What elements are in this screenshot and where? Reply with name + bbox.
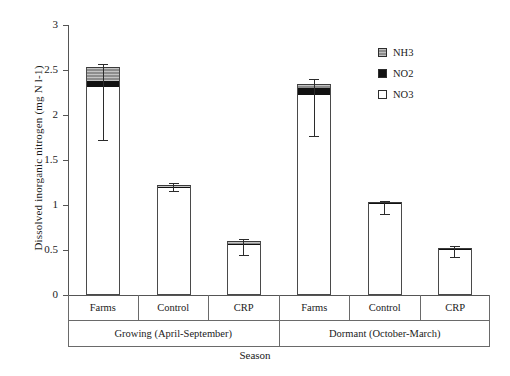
season-label-dormant: Dormant (October-March) [280, 321, 491, 346]
season-label-row: Growing (April-September)Dormant (Octobe… [68, 321, 490, 347]
error-bar-lower [103, 67, 104, 140]
season-label-growing: Growing (April-September) [68, 321, 280, 346]
error-bar-lower-cap [450, 257, 460, 258]
treatment-label-row: FarmsControlCRPFarmsControlCRP [68, 295, 490, 321]
error-bar-lower-cap [169, 191, 179, 192]
legend-item-no3: NO3 [378, 84, 488, 105]
error-bar-lower [454, 248, 455, 257]
y-tick-label: 3 [18, 19, 58, 30]
legend-item-nh3: NH3 [378, 42, 488, 63]
error-bar-lower-cap [98, 140, 108, 141]
x-axis-title: Season [0, 349, 510, 361]
legend-item-no2: NO2 [378, 63, 488, 84]
y-tick-label: 0 [18, 289, 58, 300]
treatment-label-farms: Farms [280, 295, 351, 320]
treatment-label-control: Control [139, 295, 210, 320]
no2-black-swatch-icon [378, 69, 387, 78]
treatment-label-crp: CRP [421, 295, 491, 320]
legend-label-no3: NO3 [393, 89, 413, 100]
y-tick-label: 2.5 [18, 64, 58, 75]
bar-segment-no3 [368, 204, 402, 295]
error-bar-lower-cap [380, 214, 390, 215]
y-tick-label: 0.5 [18, 244, 58, 255]
category-axis: FarmsControlCRPFarmsControlCRP Growing (… [68, 295, 490, 347]
y-axis-line [68, 25, 69, 296]
stacked-bar [368, 202, 402, 295]
y-tick-label: 2 [18, 109, 58, 120]
error-bar-upper-cap [98, 64, 108, 65]
error-bar-lower [243, 241, 244, 255]
treatment-label-crp: CRP [209, 295, 280, 320]
treatment-label-control: Control [350, 295, 421, 320]
stacked-bar [157, 185, 191, 295]
error-bar-lower-cap [309, 136, 319, 137]
error-bar-upper-cap [309, 79, 319, 80]
y-tick-mark [63, 25, 68, 26]
y-tick-mark [63, 70, 68, 71]
legend-label-nh3: NH3 [393, 47, 413, 58]
legend: NH3 NO2 NO3 [378, 42, 488, 105]
error-bar-lower [384, 202, 385, 214]
y-tick-mark [63, 160, 68, 161]
error-bar-lower-cap [239, 255, 249, 256]
bar-segment-no3 [157, 188, 191, 295]
y-tick-label: 1 [18, 199, 58, 210]
no3-white-swatch-icon [378, 90, 387, 99]
y-tick-mark [63, 115, 68, 116]
y-tick-label: 1.5 [18, 154, 58, 165]
y-tick-mark [63, 250, 68, 251]
error-bar-lower [314, 84, 315, 136]
nh3-hatched-gray-swatch-icon [378, 48, 387, 57]
treatment-label-farms: Farms [68, 295, 139, 320]
figure-root: Dissolved inorganic nitrogen (mg N l-1) … [0, 0, 510, 376]
legend-label-no2: NO2 [393, 68, 413, 79]
y-tick-mark [63, 205, 68, 206]
